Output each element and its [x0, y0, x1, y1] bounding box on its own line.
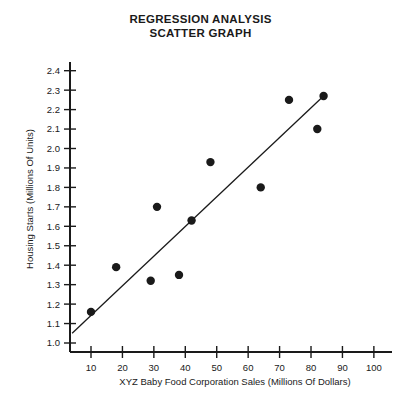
x-axis-tick-label: 10	[86, 362, 97, 373]
y-axis-tick-label: 1.8	[47, 182, 60, 193]
data-point	[257, 183, 265, 191]
x-axis-tick-label: 20	[117, 362, 128, 373]
y-axis-tick-label: 1.6	[47, 221, 60, 232]
x-axis: 102030405060708090100	[70, 346, 392, 373]
x-axis-title: XYZ Baby Food Corporation Sales (Million…	[119, 376, 350, 387]
regression-line-group	[72, 96, 323, 333]
regression-line	[72, 96, 323, 333]
x-axis-tick-label: 90	[337, 362, 348, 373]
x-axis-tick-label: 70	[274, 362, 285, 373]
data-point	[285, 96, 293, 104]
y-axis-tick-label: 1.9	[47, 162, 60, 173]
y-axis-tick-label: 1.7	[47, 201, 60, 212]
data-point	[112, 263, 120, 271]
y-axis-tick-label: 2.2	[47, 104, 60, 115]
y-axis-tick-label: 2.0	[47, 143, 60, 154]
scatter-chart-figure: REGRESSION ANALYSIS SCATTER GRAPH 1.01.1…	[0, 0, 401, 407]
data-point	[313, 125, 321, 133]
x-axis-tick-label: 60	[243, 362, 254, 373]
y-axis-tick-label: 1.3	[47, 279, 60, 290]
y-axis-tick-label: 1.5	[47, 240, 60, 251]
x-axis-tick-label: 40	[180, 362, 191, 373]
y-axis-tick-label: 2.1	[47, 123, 60, 134]
y-axis-tick-label: 1.0	[47, 337, 60, 348]
x-axis-tick-label: 50	[211, 362, 222, 373]
plot-area: 1.01.11.21.31.41.51.61.71.81.92.02.12.22…	[0, 0, 401, 407]
data-point	[175, 271, 183, 279]
y-axis-tick-label: 2.3	[47, 85, 60, 96]
data-point	[147, 277, 155, 285]
data-point	[153, 203, 161, 211]
x-axis-tick-label: 30	[149, 362, 160, 373]
y-axis-tick-label: 1.1	[47, 318, 60, 329]
y-axis-tick-label: 2.4	[47, 65, 60, 76]
data-point	[206, 158, 214, 166]
y-axis-title: Housing Starts (Millions Of Units)	[24, 129, 35, 269]
x-axis-tick-label: 100	[366, 362, 382, 373]
y-axis-tick-label: 1.2	[47, 299, 60, 310]
x-axis-tick-label: 80	[306, 362, 317, 373]
y-axis: 1.01.11.21.31.41.51.61.71.81.92.02.12.22…	[47, 62, 76, 352]
y-axis-tick-label: 1.4	[47, 260, 60, 271]
